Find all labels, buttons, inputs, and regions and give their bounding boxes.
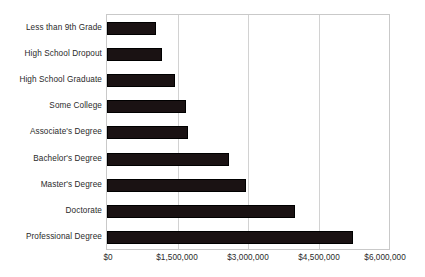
- x-tick-label: $6,000,000: [364, 253, 405, 262]
- bar-row: [107, 199, 389, 225]
- bar-row: [107, 67, 389, 93]
- category-label: Doctorate: [0, 198, 102, 224]
- bar-row: [107, 41, 389, 67]
- bar: [107, 100, 186, 113]
- bar-row: [107, 146, 389, 172]
- category-label: Master's Degree: [0, 171, 102, 197]
- bar: [107, 48, 162, 61]
- bar-row: [107, 225, 389, 251]
- bar: [107, 205, 295, 218]
- bar: [107, 153, 229, 166]
- x-tick-label: $3,000,000: [227, 253, 268, 262]
- category-label: High School Graduate: [0, 66, 102, 92]
- bar-row: [107, 120, 389, 146]
- bar-row: [107, 15, 389, 41]
- category-label: High School Dropout: [0, 40, 102, 66]
- bar-row: [107, 172, 389, 198]
- bars-layer: [107, 15, 389, 249]
- category-label: Professional Degree: [0, 224, 102, 250]
- value-axis-labels: $0 $1,500,000 $3,000,000 $4,500,000 $6,0…: [0, 253, 425, 269]
- bar: [107, 231, 353, 244]
- bar: [107, 22, 156, 35]
- plot-area: [106, 14, 390, 250]
- bar: [107, 179, 246, 192]
- category-label: Some College: [0, 93, 102, 119]
- x-tick-label: $0: [103, 253, 112, 262]
- bar-row: [107, 94, 389, 120]
- category-label: Bachelor's Degree: [0, 145, 102, 171]
- bar: [107, 126, 188, 139]
- category-axis-labels: Less than 9th Grade High School Dropout …: [0, 14, 102, 250]
- bar-chart: Less than 9th Grade High School Dropout …: [0, 0, 425, 277]
- bar: [107, 74, 175, 87]
- category-label: Less than 9th Grade: [0, 14, 102, 40]
- x-tick-label: $4,500,000: [298, 253, 339, 262]
- x-tick-label: $1,500,000: [156, 253, 197, 262]
- category-label: Associate's Degree: [0, 119, 102, 145]
